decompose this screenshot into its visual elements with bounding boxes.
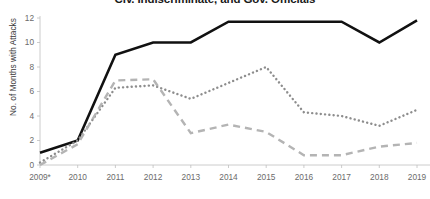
x-tick-label: 2011 xyxy=(106,172,124,182)
x-tick-label: 2009* xyxy=(29,172,51,182)
x-tick-label: 2018 xyxy=(370,172,388,182)
x-tick-label: 2017 xyxy=(332,172,350,182)
x-axis-tick-labels: 2009*20102011201220132014201520162017201… xyxy=(0,172,430,192)
chart-container: Civ. Indiscriminate, and Gov. Officials … xyxy=(0,0,430,199)
data-series xyxy=(40,20,417,165)
x-tick-label: 2010 xyxy=(68,172,86,182)
series-line-solid xyxy=(40,20,417,152)
x-tick-label: 2012 xyxy=(144,172,162,182)
x-tick-label: 2014 xyxy=(219,172,237,182)
series-line-dashed xyxy=(40,79,417,165)
x-tick-label: 2015 xyxy=(257,172,275,182)
x-tick-label: 2013 xyxy=(182,172,200,182)
x-tick-label: 2016 xyxy=(295,172,313,182)
plot-area xyxy=(0,0,430,199)
series-line-dotted xyxy=(40,67,417,163)
x-tick-label: 2019 xyxy=(408,172,426,182)
